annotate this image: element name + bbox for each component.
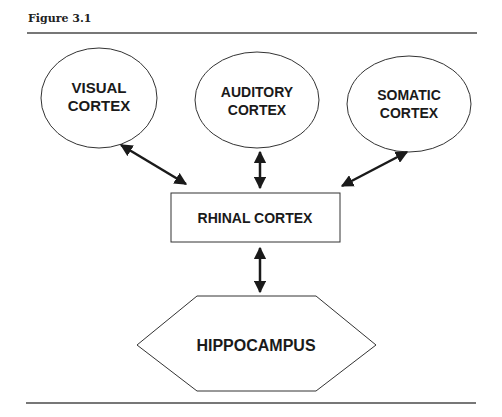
somatic-cortex-ellipse — [347, 56, 471, 152]
arrow-visual-rhinal — [121, 145, 186, 184]
auditory-cortex-label-line2: CORTEX — [228, 102, 287, 118]
node-visual-cortex: VISUAL CORTEX — [41, 48, 157, 148]
node-hippocampus: HIPPOCAMPUS — [137, 296, 376, 391]
auditory-cortex-ellipse — [195, 52, 319, 148]
bottom-rule — [26, 402, 476, 404]
auditory-cortex-label-line1: AUDITORY — [221, 84, 294, 100]
diagram-canvas: VISUAL CORTEX AUDITORY CORTEX SOMATIC CO… — [0, 0, 502, 417]
node-rhinal-cortex: RHINAL CORTEX — [171, 193, 340, 242]
somatic-cortex-label-line1: SOMATIC — [377, 87, 441, 103]
somatic-cortex-label-line2: CORTEX — [380, 105, 439, 121]
node-somatic-cortex: SOMATIC CORTEX — [347, 56, 471, 152]
arrow-somatic-rhinal — [342, 152, 407, 186]
visual-cortex-label-line2: CORTEX — [68, 97, 131, 114]
rhinal-cortex-label: RHINAL CORTEX — [198, 210, 314, 226]
node-auditory-cortex: AUDITORY CORTEX — [195, 52, 319, 148]
visual-cortex-label-line1: VISUAL — [71, 79, 126, 96]
hippocampus-label: HIPPOCAMPUS — [196, 337, 315, 354]
